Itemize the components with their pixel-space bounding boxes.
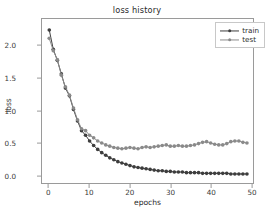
data-point — [140, 166, 144, 170]
legend-marker-icon — [220, 35, 239, 44]
data-point — [148, 146, 152, 150]
legend-label: test — [242, 35, 256, 44]
data-point — [76, 118, 80, 122]
data-point — [128, 146, 132, 150]
y-tick-label: 0.5 — [0, 139, 16, 148]
data-point — [213, 142, 217, 146]
data-point — [136, 147, 140, 151]
data-point — [209, 171, 213, 175]
data-point — [168, 170, 172, 174]
data-point — [197, 142, 201, 146]
y-tick-label: 1.5 — [0, 74, 16, 83]
legend-item-train[interactable]: train — [220, 26, 259, 35]
data-point — [84, 129, 88, 133]
data-point — [132, 165, 136, 169]
data-point — [132, 146, 136, 150]
data-point — [193, 171, 197, 175]
x-tick-mark — [252, 184, 253, 188]
data-point — [108, 156, 112, 160]
data-point — [47, 37, 51, 41]
data-point — [229, 140, 233, 144]
data-point — [156, 169, 160, 173]
data-point — [164, 170, 168, 174]
data-point — [189, 171, 193, 175]
data-point — [64, 85, 68, 89]
data-point — [144, 167, 148, 171]
x-tick-label: 10 — [74, 188, 104, 197]
data-point — [100, 151, 104, 155]
data-point — [104, 153, 108, 157]
data-point — [56, 58, 60, 62]
x-axis-label: epochs — [41, 198, 254, 207]
data-point — [80, 127, 84, 131]
data-point — [51, 49, 55, 53]
series-line-test — [49, 38, 247, 148]
data-point — [108, 144, 112, 148]
legend-item-test[interactable]: test — [220, 35, 259, 44]
y-tick-mark — [37, 176, 41, 177]
data-point — [221, 171, 225, 175]
data-point — [156, 144, 160, 148]
data-point — [84, 133, 88, 137]
y-tick-mark — [37, 110, 41, 111]
legend-label: train — [242, 26, 259, 35]
data-point — [148, 168, 152, 172]
data-point — [164, 143, 168, 147]
y-tick-label: 2.0 — [0, 41, 16, 50]
x-tick-mark — [211, 184, 212, 188]
data-point — [177, 144, 181, 148]
data-point — [197, 171, 201, 175]
data-point — [160, 169, 164, 173]
data-point — [217, 143, 221, 147]
data-point — [241, 172, 245, 176]
data-point — [181, 170, 185, 174]
data-point — [237, 172, 241, 176]
data-point — [100, 141, 104, 145]
data-point — [152, 168, 156, 172]
data-point — [237, 139, 241, 143]
legend-marker-icon — [220, 26, 239, 35]
data-point — [120, 161, 124, 165]
series-line-train — [49, 30, 247, 174]
data-point — [124, 146, 128, 150]
x-tick-label: 30 — [156, 188, 186, 197]
data-point — [112, 146, 116, 150]
data-point — [181, 144, 185, 148]
data-point — [245, 172, 249, 176]
data-point — [221, 143, 225, 147]
data-point — [245, 141, 249, 145]
data-point — [72, 106, 76, 110]
series-train — [47, 28, 248, 176]
x-tick-mark — [89, 184, 90, 188]
data-point — [120, 147, 124, 151]
data-point — [144, 145, 148, 149]
data-point — [213, 171, 217, 175]
data-point — [88, 133, 92, 137]
data-point — [92, 144, 96, 148]
y-tick-mark — [37, 45, 41, 46]
data-point — [96, 148, 100, 152]
data-point — [201, 171, 205, 175]
data-point — [185, 171, 189, 175]
series-test — [47, 37, 248, 151]
chart-title: loss history — [0, 5, 274, 15]
data-point — [209, 141, 213, 145]
data-point — [124, 162, 128, 166]
data-point — [172, 170, 176, 174]
data-point — [92, 136, 96, 140]
y-tick-mark — [37, 78, 41, 79]
data-point — [177, 170, 181, 174]
legend-dot — [228, 29, 232, 33]
data-point — [104, 143, 108, 147]
data-point — [47, 28, 51, 32]
data-point — [233, 172, 237, 176]
y-tick-label: 1.0 — [0, 106, 16, 115]
x-tick-mark — [170, 184, 171, 188]
data-point — [96, 139, 100, 143]
x-tick-label: 20 — [115, 188, 145, 197]
data-point — [233, 139, 237, 143]
data-point — [136, 166, 140, 170]
x-tick-mark — [129, 184, 130, 188]
data-point — [201, 140, 205, 144]
figure: loss history loss epochs 0.00.51.01.52.0… — [0, 0, 274, 223]
